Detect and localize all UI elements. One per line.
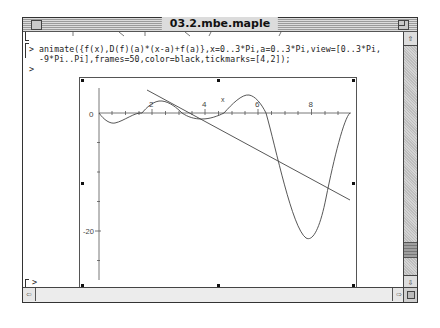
scroll-thumb[interactable]: [404, 242, 417, 258]
maple-window: 03.2.mbe.maple > animate({f(x),D(f)(a)*(…: [22, 17, 418, 303]
previous-group-bracket: [25, 32, 29, 41]
x-tick-6: 6: [255, 100, 260, 109]
empty-prompt[interactable]: >: [29, 64, 34, 74]
command-line-2[interactable]: -9*Pi..Pi],frames=50,color=black,tickmar…: [29, 54, 291, 64]
x-tick-8: 8: [309, 100, 314, 109]
title-bar[interactable]: 03.2.mbe.maple: [23, 18, 417, 32]
plot-canvas: 2 4 6 8 x 0 -20: [80, 78, 356, 288]
y-tick-neg20: -20: [83, 227, 94, 236]
zoom-box-icon[interactable]: [398, 20, 409, 30]
grow-box-icon[interactable]: [403, 287, 417, 302]
bottom-prompt[interactable]: >: [32, 277, 37, 287]
vertical-scrollbar[interactable]: ⇧ ⇩: [403, 32, 417, 289]
close-box-icon[interactable]: [31, 20, 42, 30]
y-tick-0: 0: [89, 110, 94, 119]
horizontal-scrollbar[interactable]: ⇦ ⇨: [23, 287, 405, 302]
x-tick-2: 2: [149, 100, 154, 109]
window-title: 03.2.mbe.maple: [162, 17, 278, 31]
animation-plot[interactable]: 2 4 6 8 x 0 -20: [79, 77, 357, 289]
command-line-1[interactable]: > animate({f(x),D(f)(a)*(x-a)+f(a)},x=0.…: [29, 44, 381, 54]
up-arrow-icon[interactable]: ⇧: [404, 32, 417, 46]
worksheet-area[interactable]: > animate({f(x),D(f)(a)*(x-a)+f(a)},x=0.…: [23, 32, 405, 289]
x-tick-4: 4: [202, 100, 207, 109]
function-curve: [99, 95, 350, 239]
left-arrow-icon[interactable]: ⇦: [23, 288, 36, 301]
tangent-line: [147, 90, 350, 200]
x-axis-label: x: [221, 96, 225, 103]
previous-plot-fragment: [23, 32, 405, 44]
